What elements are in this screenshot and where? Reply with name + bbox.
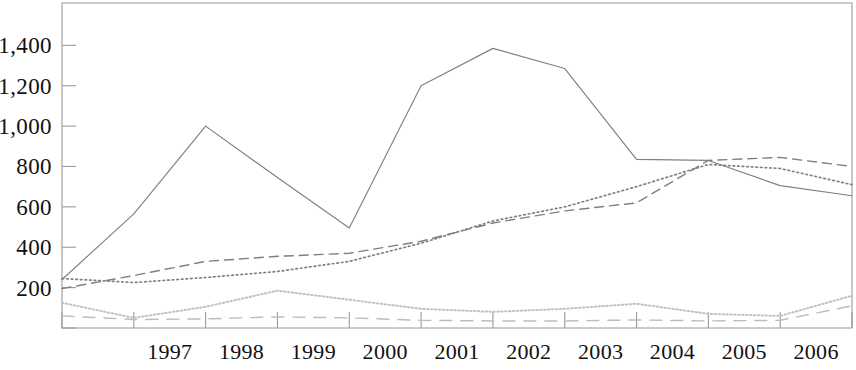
x-tick-label: 1997 bbox=[147, 339, 192, 364]
x-tick-label: 2004 bbox=[650, 339, 695, 364]
y-tick-label: 1,000 bbox=[0, 114, 52, 139]
x-tick-label: 2002 bbox=[506, 339, 551, 364]
x-tick-label: 2005 bbox=[722, 339, 767, 364]
chart-canvas: 1,4001,2001,000800600400200 199719981999… bbox=[0, 0, 856, 370]
y-tick-label: 600 bbox=[16, 195, 52, 220]
x-tick-label: 1998 bbox=[219, 339, 264, 364]
y-tick-label: 800 bbox=[16, 154, 52, 179]
y-tick-label: 1,200 bbox=[0, 74, 52, 99]
y-tick-label: 1,400 bbox=[0, 33, 52, 58]
x-tick-label: 2003 bbox=[578, 339, 623, 364]
x-tick-label: 2006 bbox=[793, 339, 838, 364]
line-chart: 1,4001,2001,000800600400200 199719981999… bbox=[0, 0, 856, 370]
x-tick-label: 1999 bbox=[291, 339, 336, 364]
x-tick-label: 2000 bbox=[363, 339, 408, 364]
y-tick-label: 200 bbox=[16, 276, 52, 301]
y-tick-label: 400 bbox=[16, 235, 52, 260]
x-tick-label: 2001 bbox=[434, 339, 479, 364]
